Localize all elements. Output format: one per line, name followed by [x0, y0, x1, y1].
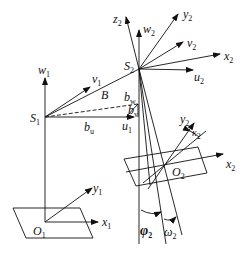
label-v2: v2	[187, 37, 196, 52]
label-s1: S1	[30, 112, 40, 127]
label-bv: bv	[128, 104, 138, 119]
label-s2: S2	[124, 60, 134, 75]
y2-axis-plane	[148, 123, 194, 189]
plane-o1	[13, 208, 93, 238]
label-x2-plane: x2	[226, 158, 235, 173]
label-y2-top: y2	[183, 8, 192, 23]
label-u2: u2	[194, 71, 204, 86]
label-x2-top: x2	[224, 50, 233, 65]
v1-axis	[45, 87, 90, 117]
label-y2-plane: y2	[180, 113, 189, 128]
label-u1: u1	[122, 120, 132, 135]
label-v1: v1	[92, 73, 101, 88]
label-y1: y1	[93, 182, 102, 197]
y1-axis	[45, 188, 92, 222]
label-bu: bu	[84, 121, 94, 136]
phi-arc	[141, 210, 161, 214]
label-x1: x1	[102, 216, 111, 231]
label-phi2: φ2	[140, 224, 152, 240]
omega-arc	[164, 217, 176, 220]
plane-o2	[124, 147, 207, 186]
label-z2: z2	[113, 13, 122, 28]
label-w2: w2	[143, 23, 155, 38]
label-w1: w1	[38, 64, 50, 79]
label-o2: O2	[172, 166, 185, 181]
u2-axis	[139, 69, 193, 70]
label-bw: bw	[124, 91, 136, 106]
label-o1: O1	[33, 225, 46, 240]
label-omega2: ω2	[164, 226, 176, 241]
label-baseline-b: B	[101, 89, 108, 101]
label-kappa2: κ2	[192, 128, 201, 141]
